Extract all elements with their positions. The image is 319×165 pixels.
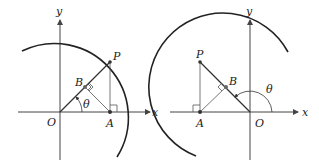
point-b-dot (224, 85, 228, 89)
point-a-dot (108, 110, 112, 114)
label-x: x (302, 106, 309, 119)
label-b: B (228, 75, 237, 88)
label-o: O (47, 116, 56, 129)
point-p-dot (108, 60, 112, 64)
point-a-dot (198, 110, 202, 114)
label-a: A (195, 117, 204, 130)
label-p: P (195, 48, 204, 61)
label-y: y (245, 5, 253, 18)
label-p: P (112, 50, 121, 63)
label-y: y (55, 5, 63, 18)
figure-right: y x O P A B θ (149, 5, 309, 160)
label-o: O (255, 117, 264, 130)
label-a: A (105, 117, 114, 130)
label-theta: θ (266, 83, 273, 96)
diagram-canvas: y x O P A B θ y x O P A B θ (0, 0, 319, 165)
angle-theta-arc (76, 97, 82, 112)
point-b-dot (83, 85, 87, 89)
label-theta: θ (83, 98, 90, 111)
label-b: B (74, 76, 83, 89)
figure-left: y x O P A B θ (18, 5, 159, 160)
